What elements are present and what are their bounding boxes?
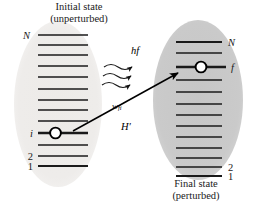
initial-state-caption-line2: (unperturbed) [24,13,134,25]
final-state-caption-line2: (perturbed) [140,190,252,202]
initial-label-1: 1 [28,161,33,172]
initial-label-i: i [30,128,33,139]
energy-level-transition-diagram: N i 2 1 N f 2 1 Initial state (unperturb… [0,0,256,209]
initial-state-caption-line1: Initial state [24,1,134,13]
final-label-N: N [227,37,236,48]
photon-wave-arrows [102,65,132,88]
initial-electron-marker [50,128,61,139]
photon-energy-label: hf [131,45,139,56]
transition-rate-label: wfi [112,101,122,111]
initial-state-caption: Initial state (unperturbed) [24,1,134,24]
initial-label-N: N [22,30,31,41]
perturbation-label: H′ [121,121,131,132]
final-electron-marker [196,62,207,73]
final-state-caption: Final state (perturbed) [140,178,252,201]
transition-rate-subscript: fi [118,104,122,111]
final-state-caption-line1: Final state [140,178,252,190]
